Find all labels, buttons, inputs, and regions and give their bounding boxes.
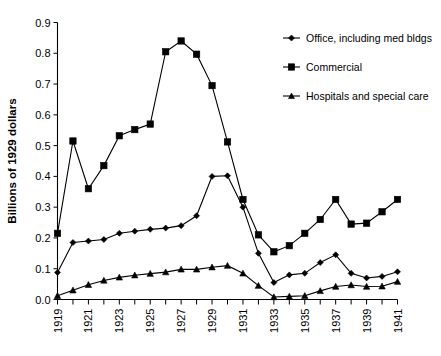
legend-label: Office, including med bldgs (306, 32, 432, 44)
y-axis-title: Billions of 1929 dollars (6, 98, 18, 223)
data-point-marker (348, 221, 354, 227)
y-tick-label: 0.5 (35, 140, 50, 152)
data-point-marker (286, 272, 292, 278)
data-point-marker (255, 250, 261, 256)
data-point-marker (332, 196, 338, 202)
data-point-marker (240, 270, 246, 276)
data-point-marker (85, 186, 91, 192)
x-tick-label: 1925 (144, 309, 156, 333)
x-tick-label: 1927 (175, 309, 187, 333)
data-point-marker (394, 278, 400, 284)
data-point-marker (116, 133, 122, 139)
x-tick-label: 1937 (330, 309, 342, 333)
x-tick-label: 1919 (52, 309, 64, 333)
x-tick-label: 1931 (237, 309, 249, 333)
series-3 (54, 262, 400, 299)
data-point-marker (379, 273, 385, 279)
data-point-marker (193, 51, 199, 57)
data-point-marker (101, 162, 107, 168)
data-point-marker (101, 236, 107, 242)
y-tick-label: 0.7 (35, 78, 50, 90)
y-tick-label: 0.0 (35, 294, 50, 306)
data-point-marker (178, 223, 184, 229)
data-point-marker (364, 275, 370, 281)
data-point-marker (394, 196, 400, 202)
line-chart: 0.00.10.20.30.40.50.60.70.80.9Billions o… (0, 0, 441, 356)
y-tick-label: 0.8 (35, 47, 50, 59)
x-tick-label: 1941 (392, 309, 404, 333)
data-point-marker (70, 240, 76, 246)
data-point-marker (240, 196, 246, 202)
chart-container: 0.00.10.20.30.40.50.60.70.80.9Billions o… (0, 0, 441, 356)
x-tick-label: 1929 (206, 309, 218, 333)
y-tick-label: 0.2 (35, 232, 50, 244)
data-point-marker (55, 269, 61, 275)
y-tick-label: 0.4 (35, 170, 50, 182)
data-point-marker (379, 209, 385, 215)
legend: Office, including med bldgsCommercialHos… (283, 32, 432, 102)
x-tick-label: 1939 (361, 309, 373, 333)
data-point-marker (286, 242, 292, 248)
legend-label: Hospitals and special care (306, 90, 429, 102)
data-point-marker (116, 230, 122, 236)
y-tick-label: 0.6 (35, 109, 50, 121)
data-point-marker (395, 269, 401, 275)
data-point-marker (363, 220, 369, 226)
data-point-marker (255, 232, 261, 238)
y-tick-label: 0.9 (35, 17, 50, 29)
data-point-marker (54, 230, 60, 236)
data-point-marker (317, 216, 323, 222)
series-line (58, 266, 398, 297)
data-point-marker (132, 126, 138, 132)
legend-item-3: Hospitals and special care (283, 90, 429, 102)
x-tick-label: 1923 (113, 309, 125, 333)
data-point-marker (209, 173, 215, 179)
data-point-marker (162, 49, 168, 55)
x-tick-label: 1935 (299, 309, 311, 333)
legend-label: Commercial (306, 61, 362, 73)
data-point-marker (271, 280, 277, 286)
data-point-marker (302, 230, 308, 236)
data-point-marker (289, 35, 295, 41)
x-tick-label: 1921 (82, 309, 94, 333)
x-axis-ticks: 1919192119231925192719291931193319351937… (52, 300, 404, 333)
data-point-marker (147, 226, 153, 232)
data-point-marker (288, 64, 294, 70)
legend-item-2: Commercial (283, 61, 362, 73)
data-point-marker (178, 38, 184, 44)
x-tick-label: 1933 (268, 309, 280, 333)
data-point-marker (147, 121, 153, 127)
y-tick-label: 0.1 (35, 263, 50, 275)
data-point-marker (132, 228, 138, 234)
y-axis-ticks: 0.00.10.20.30.40.50.60.70.80.9 (35, 17, 57, 306)
y-tick-label: 0.3 (35, 201, 50, 213)
data-point-marker (163, 225, 169, 231)
data-point-marker (209, 82, 215, 88)
data-point-marker (70, 138, 76, 144)
data-point-marker (271, 249, 277, 255)
data-point-marker (194, 213, 200, 219)
data-point-marker (225, 173, 231, 179)
legend-item-1: Office, including med bldgs (283, 32, 432, 44)
data-point-marker (224, 139, 230, 145)
data-point-marker (85, 238, 91, 244)
